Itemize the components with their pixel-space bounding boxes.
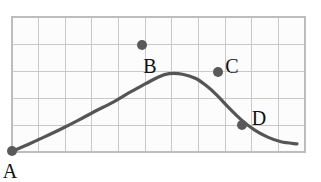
point-label-d: D [252, 107, 266, 129]
point-marker-a [7, 146, 17, 156]
point-label-c: C [225, 55, 238, 77]
curve-plot: ABCD [0, 0, 321, 182]
point-marker-c [213, 67, 223, 77]
point-marker-d [237, 120, 247, 130]
point-label-b: B [143, 55, 156, 77]
point-label-a: A [3, 160, 18, 182]
point-marker-b [137, 40, 147, 50]
figure-container: ABCD [0, 0, 321, 182]
